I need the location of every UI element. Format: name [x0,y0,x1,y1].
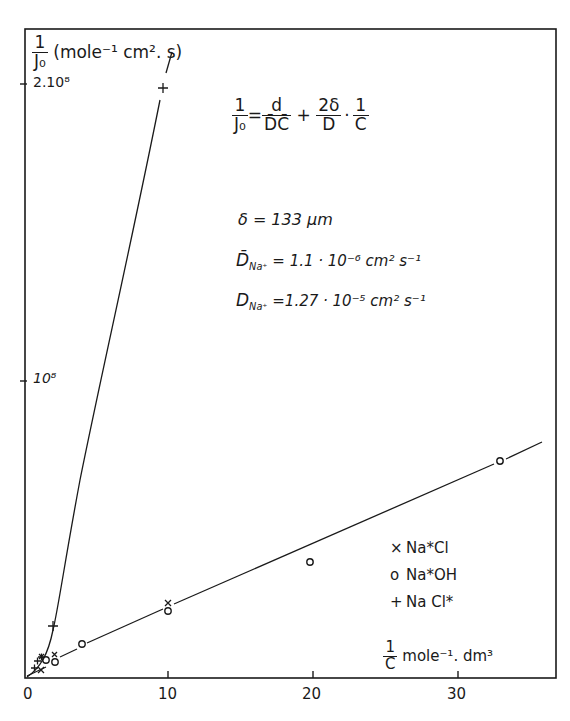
legend-item-nacl-star-cl: +Na Cl* [390,589,457,616]
x-axis-units: mole⁻¹. dm³ [402,647,493,665]
eq-lhs: 1J₀ [232,97,248,134]
delta-annotation: δ = 133 μm [238,210,333,229]
d-symbol: D [236,290,249,310]
eq-term1-den: D̄C̄ [262,116,291,134]
x-axis-fraction: 1C [383,640,397,673]
d-annotation: DNa⁺ =1.27 · 10⁻⁵ cm² s⁻¹ [236,290,426,312]
x-axis-label: 1C mole⁻¹. dm³ [383,640,493,673]
x-axis-den: C [383,657,397,673]
y-tick-label-1e8: 10⁸ [33,370,56,386]
x-tick-label-30: 30 [447,685,466,703]
dbar-subscript: Na⁺ [249,261,267,272]
steep-fit-curve [27,100,160,677]
eq-equals: = [248,105,262,125]
plus-marker-icon: + [390,589,406,616]
d-value: =1.27 · 10⁻⁵ cm² s⁻¹ [272,292,425,310]
y-tick-label-2e8: 2.10⁸ [33,74,70,90]
legend-item-nacl-star-na: ×Na*Cl [390,535,457,562]
x-marker-icon: × [390,535,406,562]
y-axis-den: J₀ [32,53,48,71]
equation: 1J₀=dD̄C̄ + 2δD·1C [232,97,369,134]
dbar-value: = 1.1 · 10⁻⁶ cm² s⁻¹ [272,252,421,270]
d-subscript: Na⁺ [249,301,267,312]
eq-term1: dD̄C̄ [262,97,291,134]
eq-lhs-den: J₀ [232,116,248,134]
eq-term2-den: D [316,116,341,134]
eq-plus: + [296,105,310,125]
legend: ×Na*Cl oNa*OH +Na Cl* [390,535,457,616]
legend-label: Na*Cl [406,539,449,557]
y-axis-units: (mole⁻¹ cm². s) [53,42,182,62]
x-tick-label-20: 20 [302,685,321,703]
y-axis-label: 1J₀ (mole⁻¹ cm². s) [32,34,182,71]
circle-marker-icon: o [390,562,406,589]
x-tick-label-0: 0 [23,685,33,703]
x-tick-label-10: 10 [158,685,177,703]
legend-label: Na Cl* [406,593,453,611]
dbar-symbol: D̄ [236,250,249,270]
eq-dot: · [341,105,352,125]
eq-term3-den: C [353,116,369,134]
eq-term3: 1C [353,97,369,134]
dbar-annotation: D̄Na⁺ = 1.1 · 10⁻⁶ cm² s⁻¹ [236,250,421,272]
y-axis-fraction: 1J₀ [32,34,48,71]
eq-term2: 2δD [316,97,341,134]
legend-item-naoh-star-na: oNa*OH [390,562,457,589]
legend-label: Na*OH [406,566,457,584]
